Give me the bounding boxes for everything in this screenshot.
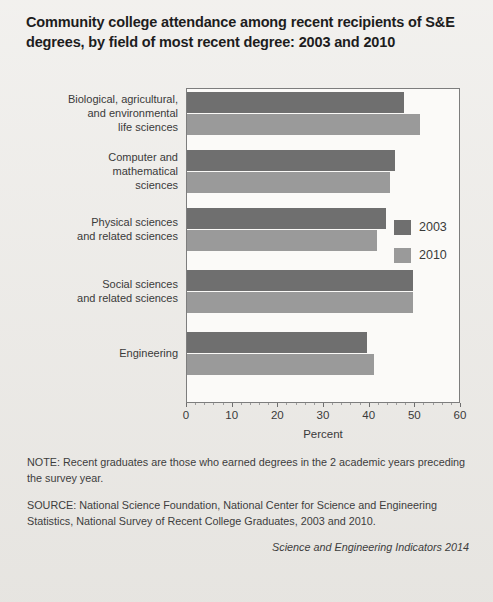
chart-area: Biological, agricultural,and environment…	[26, 88, 466, 443]
x-axis-minor-tick	[405, 403, 406, 405]
x-axis-minor-tick	[423, 403, 424, 405]
x-axis-minor-tick	[360, 403, 361, 405]
x-axis-minor-tick	[396, 403, 397, 405]
legend-label: 2010	[419, 248, 447, 262]
bar-2010	[187, 230, 377, 251]
bar-2003	[187, 208, 386, 229]
x-axis-tick	[460, 403, 461, 407]
source-text: SOURCE: National Science Foundation, Nat…	[27, 498, 469, 530]
legend-label: 2003	[419, 220, 447, 234]
x-axis-minor-tick	[378, 403, 379, 405]
credit-text: Science and Engineering Indicators 2014	[27, 541, 469, 553]
category-label: Biological, agricultural,and environment…	[26, 93, 178, 135]
x-axis-title: Percent	[186, 428, 460, 440]
legend-item: 2003	[394, 216, 472, 238]
category-label: Engineering	[26, 347, 178, 361]
bar-2003	[187, 270, 413, 291]
bar-2003	[187, 332, 367, 353]
legend-item: 2010	[394, 244, 472, 266]
bar-2010	[187, 172, 390, 193]
legend-swatch-2010	[394, 248, 411, 263]
notes-section: NOTE: Recent graduates are those who ear…	[27, 455, 469, 553]
x-axis-minor-tick	[350, 403, 351, 405]
x-axis-tick	[369, 403, 370, 407]
x-axis-minor-tick	[213, 403, 214, 405]
x-axis-tick	[414, 403, 415, 407]
chart-legend: 20032010	[394, 216, 472, 272]
category-label: Computer andmathematicalsciences	[26, 151, 178, 193]
x-axis-tick-label: 50	[408, 409, 421, 421]
x-axis-tick-label: 60	[454, 409, 467, 421]
x-axis-minor-tick	[332, 403, 333, 405]
x-axis-minor-tick	[305, 403, 306, 405]
x-axis-tick-label: 0	[183, 409, 189, 421]
x-axis-tick-label: 40	[362, 409, 375, 421]
figure-title: Community college attendance among recen…	[26, 12, 466, 52]
bar-2010	[187, 354, 374, 375]
x-axis-minor-tick	[451, 403, 452, 405]
x-axis-tick-label: 20	[271, 409, 284, 421]
x-axis-minor-tick	[241, 403, 242, 405]
x-axis-minor-tick	[296, 403, 297, 405]
bar-2010	[187, 292, 413, 313]
bar-2003	[187, 92, 404, 113]
x-axis-tick	[277, 403, 278, 407]
x-axis-tick	[323, 403, 324, 407]
x-axis-minor-tick	[195, 403, 196, 405]
x-axis-minor-tick	[341, 403, 342, 405]
x-axis-minor-tick	[314, 403, 315, 405]
x-axis-minor-tick	[433, 403, 434, 405]
note-text: NOTE: Recent graduates are those who ear…	[27, 455, 469, 487]
legend-swatch-2003	[394, 220, 411, 235]
x-axis-tick	[232, 403, 233, 407]
x-axis-minor-tick	[387, 403, 388, 405]
category-label: Social sciencesand related sciences	[26, 278, 178, 306]
bar-2010	[187, 114, 420, 135]
x-axis-minor-tick	[250, 403, 251, 405]
x-axis: Percent 0102030405060	[186, 403, 460, 443]
x-axis-minor-tick	[442, 403, 443, 405]
x-axis-tick	[186, 403, 187, 407]
x-axis-minor-tick	[286, 403, 287, 405]
figure-container: Community college attendance among recen…	[0, 0, 493, 602]
x-axis-minor-tick	[259, 403, 260, 405]
x-axis-minor-tick	[204, 403, 205, 405]
category-label: Physical sciencesand related sciences	[26, 216, 178, 244]
x-axis-tick-label: 10	[225, 409, 238, 421]
x-axis-tick-label: 30	[317, 409, 330, 421]
x-axis-minor-tick	[223, 403, 224, 405]
x-axis-minor-tick	[268, 403, 269, 405]
bar-2003	[187, 150, 395, 171]
